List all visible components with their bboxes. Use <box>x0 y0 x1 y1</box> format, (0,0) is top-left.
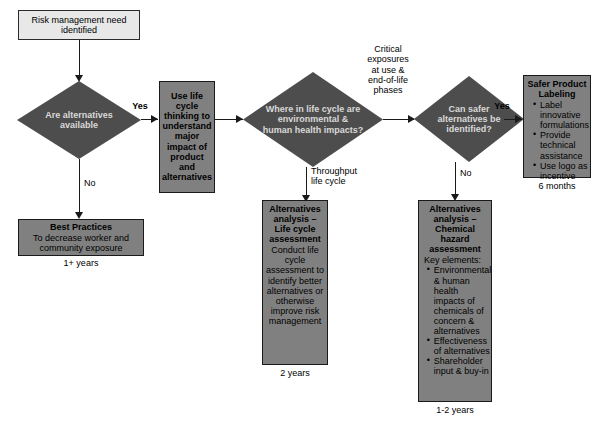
list-item: Provide technical assistance <box>534 130 589 160</box>
connector-decision1-no <box>79 159 80 216</box>
arrowhead-decision1-no <box>75 212 83 219</box>
connector-start-to-decision1 <box>79 40 80 77</box>
duration-safer-product-labeling: 6 months <box>523 181 591 191</box>
duration-best-practices: 1+ years <box>18 258 144 268</box>
list-item: Environmental & human health impacts of … <box>428 265 492 336</box>
process-use-life-cycle-thinking: Use life cycle thinking to understand ma… <box>159 81 215 193</box>
process-alternatives-analysis-life-cycle: Alternatives analysis – Life cycle asses… <box>262 200 328 365</box>
process-safer-product-labeling: Safer Product Labeling Label innovative … <box>523 75 591 178</box>
edge-label-no-1: No <box>84 178 96 188</box>
duration-chemical-hazard: 1-2 years <box>418 405 492 415</box>
connector-decision3-no <box>455 162 456 198</box>
life-cycle-assessment-body: Conduct life cycle assessment to identif… <box>265 245 325 326</box>
edge-label-yes-1: Yes <box>128 101 152 111</box>
arrowhead-decision3-yes <box>515 115 522 123</box>
decision-label: Are alternatives available <box>17 81 141 159</box>
life-cycle-assessment-title: Alternatives analysis – Life cycle asses… <box>265 204 325 244</box>
list-item: Shareholder input & buy-in <box>428 356 492 376</box>
start-node-label: Risk management need identified <box>21 15 137 35</box>
arrowhead-lifecycle-to-decision2 <box>236 115 243 123</box>
list-item: Use logo as incentive <box>534 161 589 181</box>
edge-label-no-2: No <box>460 168 472 178</box>
safer-product-labeling-title: Safer Product Labeling <box>526 79 588 99</box>
best-practices-body: To decrease worker and community exposur… <box>21 233 141 253</box>
flowchart-canvas: Risk management need identified Are alte… <box>0 0 605 430</box>
edge-label-critical-exposures: Critical exposures at use & end-of-life … <box>357 44 419 96</box>
best-practices-title: Best Practices <box>50 222 112 232</box>
chemical-hazard-body: Key elements: <box>421 255 481 265</box>
process-best-practices: Best Practices To decrease worker and co… <box>18 219 144 256</box>
list-item: Effectiveness of alternatives <box>428 336 492 356</box>
chemical-hazard-bullet-list: Environmental & human health impacts of … <box>419 265 492 376</box>
edge-label-yes-2: Yes <box>490 101 514 111</box>
process-alternatives-analysis-chemical-hazard: Alternatives analysis – Chemical hazard … <box>418 200 492 402</box>
decision-are-alternatives-available: Are alternatives available <box>17 81 141 159</box>
arrowhead-decision1-yes <box>151 115 158 123</box>
safer-product-labeling-bullet-list: Label innovative formulations Provide te… <box>525 100 589 181</box>
chemical-hazard-title: Alternatives analysis – Chemical hazard … <box>421 204 489 254</box>
edge-label-throughput-life-cycle: Throughput life cycle <box>311 166 357 187</box>
list-item: Label innovative formulations <box>534 100 589 130</box>
use-life-cycle-thinking-title: Use life cycle thinking to understand ma… <box>162 91 212 182</box>
start-node-risk-management-need: Risk management need identified <box>18 10 140 40</box>
duration-life-cycle-assessment: 2 years <box>262 368 328 378</box>
